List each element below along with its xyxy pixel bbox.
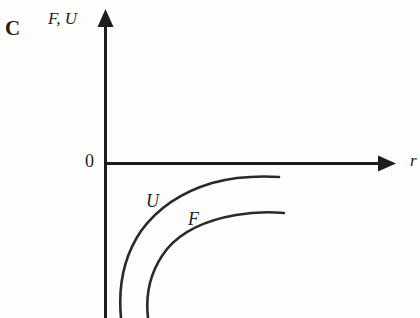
y-axis-label: F, U: [48, 10, 77, 27]
curve-u: [120, 177, 279, 318]
curve-u-label: U: [146, 192, 159, 210]
figure-panel-c: C F, U r 0 U F: [0, 0, 420, 318]
x-axis-arrow-icon: [378, 156, 396, 172]
origin-label: 0: [85, 152, 94, 170]
panel-letter: C: [5, 18, 20, 39]
x-axis-label: r: [410, 152, 417, 169]
y-axis-arrow-icon: [98, 9, 114, 27]
curve-f-label: F: [188, 210, 199, 228]
plot-canvas: [0, 0, 420, 318]
curve-f: [147, 212, 284, 318]
